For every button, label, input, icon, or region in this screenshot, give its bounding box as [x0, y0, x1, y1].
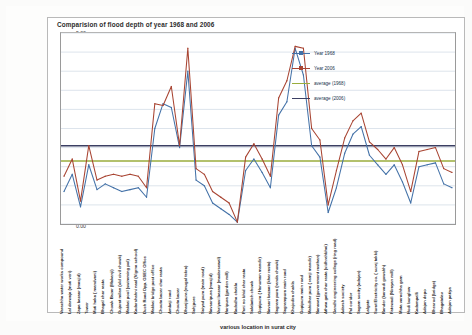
x-axis-tick-label: Bhagatalav	[439, 292, 444, 314]
series-marker	[278, 115, 279, 116]
series-marker	[270, 176, 271, 177]
x-axis-tick-label: Sagam socity (adajan)	[356, 271, 361, 314]
series-marker	[245, 157, 246, 158]
series-marker	[113, 187, 114, 188]
series-marker	[394, 164, 395, 165]
series-marker	[179, 147, 180, 148]
series-marker	[262, 159, 263, 160]
x-axis-tick-label: Sagrampura main road	[282, 269, 287, 314]
x-axis-title: various location in surat city	[60, 324, 456, 330]
series-marker	[129, 189, 130, 190]
series-marker	[63, 191, 64, 192]
x-axis-tick-label: Gandhi engineering college (ring road)	[332, 239, 337, 314]
x-axis-tick-label: Gujarat milan (old civil chowk)	[117, 255, 122, 314]
x-axis-tick-label: Surat Electricity co. ( suraj takki)	[373, 251, 378, 314]
series-marker	[262, 172, 263, 173]
legend-item[interactable]: Year 2006	[292, 63, 378, 74]
legend-swatch-icon	[292, 83, 310, 84]
legend-item[interactable]: average (2006)	[292, 93, 378, 104]
x-axis-tick-label: Pal coridor	[348, 293, 353, 314]
series-marker	[319, 157, 320, 158]
series-marker	[63, 176, 64, 177]
series-marker	[311, 145, 312, 146]
x-axis-tick-label: Lalgate	[365, 300, 370, 314]
series-marker	[394, 147, 395, 148]
x-axis-tick-label: Pani no bhid char rasta	[241, 269, 246, 314]
series-marker	[435, 162, 436, 163]
x-axis-tick-label: Chowk Bazar (Makanji)	[109, 269, 114, 314]
x-axis-tick-label: Rander (karvadi gowshh)	[381, 265, 386, 314]
legend-label: average (2006)	[314, 96, 345, 101]
series-marker	[286, 80, 287, 81]
chart-legend: Year 1968Year 2006average (1968)average …	[292, 48, 378, 108]
series-marker	[311, 128, 312, 129]
series-marker	[385, 174, 386, 175]
legend-item[interactable]: average (1968)	[292, 78, 378, 89]
series-marker	[402, 181, 403, 182]
series-line	[64, 48, 452, 222]
legend-swatch-icon	[292, 68, 310, 69]
series-marker	[121, 176, 122, 177]
x-axis-title-wrap: various location in surat city	[60, 316, 456, 328]
x-axis-tick-label: Chouta bazar char rasta	[158, 267, 163, 314]
x-axis-tick-label: Dhanjipura (mugal tekra)	[183, 266, 188, 314]
series-marker	[72, 159, 73, 160]
series-marker	[352, 120, 353, 121]
series-marker	[237, 222, 238, 223]
series-marker	[154, 128, 155, 129]
series-marker	[212, 191, 213, 192]
chart-container: Comparision of flood depth of year 1968 …	[47, 17, 465, 313]
series-marker	[220, 208, 221, 209]
legend-swatch-icon	[292, 98, 310, 99]
x-axis-tick-label: Duch Road Opp. GSEC Office	[142, 256, 147, 314]
series-marker	[377, 164, 378, 165]
x-axis-tick-label: Zapa bazaar (masjid)	[76, 273, 81, 314]
series-marker	[385, 159, 386, 160]
series-marker	[369, 155, 370, 156]
x-axis-tick-label: Sahjpore	[191, 296, 196, 314]
x-axis-tick-label: Bhagal char rasta	[100, 280, 105, 314]
series-marker	[328, 204, 329, 205]
series-marker	[427, 164, 428, 165]
series-marker	[443, 168, 444, 169]
series-marker	[352, 134, 353, 135]
x-axis-tick-label: Navsaripura (masjid)	[208, 273, 213, 314]
x-axis-tick-label: Tower	[84, 302, 89, 314]
series-marker	[187, 48, 188, 49]
series-marker	[129, 174, 130, 175]
series-marker	[220, 197, 221, 198]
x-axis-tick-label: Navsari bazaar (khar rasta)	[266, 262, 271, 314]
screenshot-page: Comparision of flood depth of year 1968 …	[0, 0, 472, 335]
x-axis-tick-label: Variyavi bazaar (madarsewal)	[216, 257, 221, 314]
series-marker	[171, 107, 172, 108]
legend-label: Year 2006	[314, 66, 335, 71]
series-marker	[402, 164, 403, 165]
series-line	[64, 46, 452, 222]
series-marker	[451, 187, 452, 188]
series-marker	[319, 139, 320, 140]
legend-label: average (1968)	[314, 81, 345, 86]
series-marker	[163, 105, 164, 106]
x-axis-tick-label: Bhesrod (bridge)	[431, 281, 436, 314]
legend-marker-icon	[299, 51, 303, 55]
x-axis-tick-label: Makkai bridge post office	[150, 265, 155, 314]
x-axis-tick-label: Gopipura ( Hanuman mandir)	[257, 257, 262, 314]
series-marker	[105, 183, 106, 184]
x-axis-tick-label: Ambaji road	[167, 290, 172, 314]
series-marker	[96, 180, 97, 181]
series-marker	[88, 164, 89, 165]
series-marker	[344, 153, 345, 154]
x-axis-tick-label: Fatewadi (Nirayan mill)	[389, 269, 394, 314]
x-axis-tick-label: Varachha water works compound	[59, 249, 64, 314]
plot-area	[60, 32, 456, 225]
x-axis-tick-label: Saiyad pura (main road)	[200, 267, 205, 314]
series-marker	[121, 191, 122, 192]
series-marker	[377, 149, 378, 150]
legend-item[interactable]: Year 1968	[292, 48, 378, 59]
x-axis-tick-label: Adarsh society	[340, 285, 345, 314]
series-marker	[253, 143, 254, 144]
x-axis-tick-label: Moti haka ( mandvani)	[92, 271, 97, 314]
x-axis-tick-label: Athwa gate char rasta (vidhrahbhai)	[323, 244, 328, 314]
series-marker	[138, 187, 139, 188]
series-marker	[270, 187, 271, 188]
